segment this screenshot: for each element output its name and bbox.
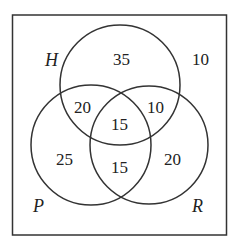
set-label-r: R	[191, 196, 203, 216]
circle-p	[31, 85, 151, 205]
set-label-h: H	[44, 50, 59, 70]
region-h-p-r: 15	[111, 115, 128, 134]
region-p-only: 25	[56, 150, 73, 169]
region-outside: 10	[192, 50, 209, 69]
venn-diagram: H P R 35 10 20 10 15 25 15 20	[0, 0, 237, 243]
region-h-p: 20	[74, 98, 91, 117]
set-label-p: P	[32, 196, 44, 216]
region-h-r: 10	[147, 98, 164, 117]
region-p-r: 15	[111, 158, 128, 177]
region-h-only: 35	[113, 50, 130, 69]
region-r-only: 20	[164, 150, 181, 169]
